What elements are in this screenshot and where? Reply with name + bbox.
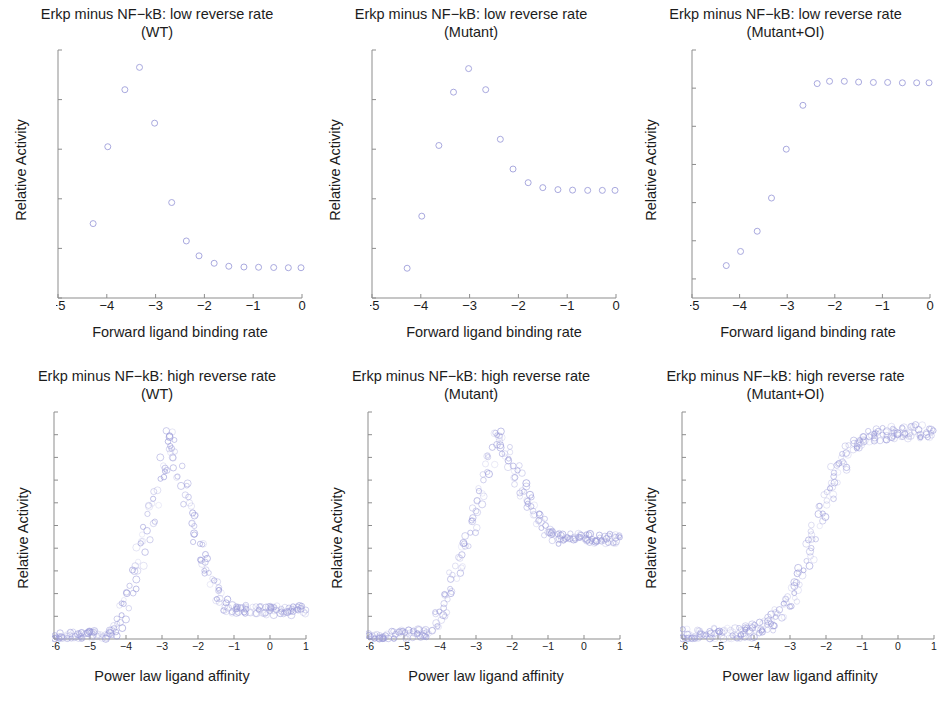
svg-text:−1: −1 <box>560 298 575 310</box>
svg-text:0: 0 <box>267 640 273 651</box>
svg-text:−1: −1 <box>856 640 868 651</box>
svg-text:1: 1 <box>931 640 937 651</box>
svg-text:0: 0 <box>612 298 619 310</box>
svg-text:−3: −3 <box>470 640 482 651</box>
svg-text:−2: −2 <box>197 298 212 310</box>
svg-text:−1: −1 <box>228 640 240 651</box>
x-axis-label: Forward ligand binding rate <box>40 324 320 340</box>
svg-text:−4: −4 <box>732 298 747 310</box>
plot-area: 00.10.20.30.40.50.60.70.80.91−6−5−4−3−2−… <box>52 410 310 651</box>
scatter-svg: 00.20.40.60.81−5−4−3−2−10 <box>370 48 620 310</box>
panel-high-reverse-mutant: Erkp minus NF−kB: high reverse rate (Mut… <box>314 368 628 711</box>
panel-title: Erkp minus NF−kB: low reverse rate (Muta… <box>628 6 943 41</box>
plot-area: 0.40.50.60.70.80.91−5−4−3−2−10 <box>690 48 934 310</box>
plot-area: 00.10.20.30.40.50.60.70.80.91−6−5−4−3−2−… <box>366 410 624 651</box>
scatter-svg: 00.10.20.30.40.50.60.70.80.91−6−5−4−3−2−… <box>680 410 938 651</box>
svg-text:−4: −4 <box>120 640 132 651</box>
svg-text:0: 0 <box>298 298 305 310</box>
svg-text:−3: −3 <box>780 298 795 310</box>
y-axis-label: Relative Activity <box>643 473 659 603</box>
y-axis-label: Relative Activity <box>329 473 345 603</box>
svg-text:−1: −1 <box>246 298 261 310</box>
x-axis-label: Forward ligand binding rate <box>668 324 943 340</box>
svg-text:−3: −3 <box>156 640 168 651</box>
panel-high-reverse-wt: Erkp minus NF−kB: high reverse rate (WT)… <box>0 368 314 711</box>
figure-panel-grid: Erkp minus NF−kB: low reverse rate (WT) … <box>0 0 943 711</box>
svg-text:−3: −3 <box>148 298 163 310</box>
svg-text:0: 0 <box>895 640 901 651</box>
x-axis-label: Power law ligand affinity <box>32 668 312 684</box>
plot-area: 00.20.40.60.81−5−4−3−2−10 <box>370 48 620 310</box>
y-axis-label: Relative Activity <box>327 105 343 235</box>
panel-title: Erkp minus NF−kB: high reverse rate (Mut… <box>314 368 628 403</box>
svg-text:−2: −2 <box>820 640 832 651</box>
svg-text:−5: −5 <box>56 298 65 310</box>
panel-title: Erkp minus NF−kB: high reverse rate (Mut… <box>628 368 943 403</box>
panel-low-reverse-wt: Erkp minus NF−kB: low reverse rate (WT) … <box>0 2 314 352</box>
svg-text:−2: −2 <box>511 298 526 310</box>
y-axis-label: Relative Activity <box>15 473 31 603</box>
scatter-svg: 00.10.20.30.40.50.60.70.80.91−6−5−4−3−2−… <box>52 410 310 651</box>
svg-text:−4: −4 <box>99 298 114 310</box>
panel-title: Erkp minus NF−kB: low reverse rate (Muta… <box>314 6 628 41</box>
panel-title: Erkp minus NF−kB: high reverse rate (WT) <box>0 368 314 403</box>
svg-text:−3: −3 <box>784 640 796 651</box>
x-axis-label: Forward ligand binding rate <box>354 324 634 340</box>
svg-text:−1: −1 <box>542 640 554 651</box>
svg-text:1: 1 <box>303 640 309 651</box>
plot-area: 00.20.40.60.81−5−4−3−2−10 <box>56 48 306 310</box>
panel-title: Erkp minus NF−kB: low reverse rate (WT) <box>0 6 314 41</box>
svg-text:0: 0 <box>926 298 933 310</box>
y-axis-label: Relative Activity <box>13 105 29 235</box>
svg-text:−2: −2 <box>827 298 842 310</box>
panel-low-reverse-mutant: Erkp minus NF−kB: low reverse rate (Muta… <box>314 2 628 352</box>
svg-text:−5: −5 <box>370 298 379 310</box>
svg-text:−4: −4 <box>434 640 446 651</box>
plot-area: 00.10.20.30.40.50.60.70.80.91−6−5−4−3−2−… <box>680 410 938 651</box>
scatter-svg: 00.20.40.60.81−5−4−3−2−10 <box>56 48 306 310</box>
x-axis-label: Power law ligand affinity <box>660 668 940 684</box>
svg-text:1: 1 <box>617 640 623 651</box>
svg-text:−3: −3 <box>462 298 477 310</box>
scatter-svg: 0.40.50.60.70.80.91−5−4−3−2−10 <box>690 48 934 310</box>
panel-low-reverse-mutant-oi: Erkp minus NF−kB: low reverse rate (Muta… <box>628 2 943 352</box>
svg-text:0: 0 <box>581 640 587 651</box>
panel-high-reverse-mutant-oi: Erkp minus NF−kB: high reverse rate (Mut… <box>628 368 943 711</box>
svg-text:−2: −2 <box>192 640 204 651</box>
svg-text:−4: −4 <box>413 298 428 310</box>
svg-text:−2: −2 <box>506 640 518 651</box>
y-axis-label: Relative Activity <box>643 105 659 235</box>
svg-text:−5: −5 <box>690 298 699 310</box>
svg-text:−4: −4 <box>748 640 760 651</box>
scatter-svg: 00.10.20.30.40.50.60.70.80.91−6−5−4−3−2−… <box>366 410 624 651</box>
svg-text:−1: −1 <box>875 298 890 310</box>
x-axis-label: Power law ligand affinity <box>346 668 626 684</box>
